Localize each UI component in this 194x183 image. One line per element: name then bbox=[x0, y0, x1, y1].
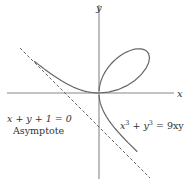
y-axis-label: y bbox=[95, 2, 102, 13]
eq-exp-a: 3 bbox=[125, 119, 129, 127]
folium-diagram: y x x + y + 1 = 0 Asymptote x3+y3= 9xy bbox=[0, 0, 194, 183]
eq-exp-b: 3 bbox=[149, 119, 153, 127]
diagram-canvas: y x x + y + 1 = 0 Asymptote x3+y3= 9xy bbox=[0, 0, 194, 183]
asymptote-caption: Asymptote bbox=[12, 125, 65, 136]
x-axis-label: x bbox=[177, 88, 183, 99]
eq-plus: + bbox=[133, 120, 141, 131]
folium-curve bbox=[34, 49, 149, 152]
asymptote-equation: x + y + 1 = 0 bbox=[7, 113, 72, 124]
curve-equation: x3+y3= 9xy bbox=[120, 119, 184, 131]
eq-rhs: = 9xy bbox=[156, 120, 184, 131]
